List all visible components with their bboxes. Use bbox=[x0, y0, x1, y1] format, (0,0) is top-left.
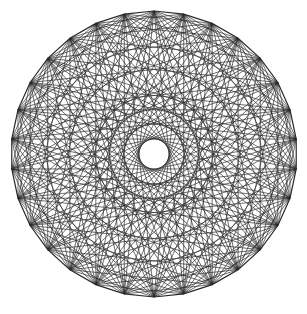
chord-line bbox=[30, 83, 70, 270]
chord-line bbox=[30, 38, 70, 225]
chord-line bbox=[238, 83, 278, 270]
string-art-mandala bbox=[0, 0, 307, 314]
chord-line bbox=[238, 38, 278, 225]
chord-lines bbox=[12, 11, 296, 297]
outer-polygon-rim bbox=[12, 11, 296, 297]
